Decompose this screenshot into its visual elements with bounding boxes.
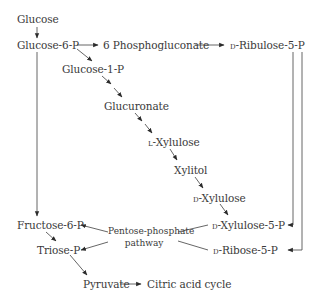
hub-line-1: Pentose-phosphate	[108, 225, 180, 237]
hub-pentose-phosphate-pathway: Pentose-phosphate pathway	[108, 225, 180, 249]
arrow-ribulose-to-xyl5p	[288, 52, 293, 225]
node-6-phosphogluconate: 6 Phosphogluconate	[103, 39, 209, 51]
arrow-f6p-to-triose	[46, 232, 56, 241]
node-xylitol: Xylitol	[174, 164, 207, 176]
arrow-dxyl-to-xyl5p	[220, 204, 228, 215]
pathway-diagram: Glucose Glucose-6-P 6 Phosphogluconate d…	[0, 0, 317, 304]
node-d-xylulose-5-p: d-Xylulose-5-P	[212, 219, 285, 232]
arrow-triose-to-pyruvate	[70, 255, 87, 275]
node-label: -Ribulose-5-P	[236, 39, 305, 51]
node-citric-acid-cycle: Citric acid cycle	[147, 278, 231, 290]
arrow-lxyl-to-xylitol	[170, 149, 177, 160]
node-label: -Xylulose	[199, 192, 246, 204]
node-d-ribose-5-p: d-Ribose-5-P	[213, 244, 278, 257]
hub-line-2: pathway	[108, 237, 180, 249]
node-label: -Xylulose-5-P	[218, 219, 286, 231]
node-glucose-6-p: Glucose-6-P	[17, 39, 79, 51]
arrow-glucuronate-to-lxyl-2	[145, 124, 152, 133]
node-pyruvate: Pyruvate	[83, 278, 130, 290]
arrow-hub-to-triose	[81, 242, 108, 250]
arrow-g1p-to-glucuronate-2	[114, 88, 122, 97]
node-d-xylulose: d-Xylulose	[193, 192, 246, 205]
node-triose-p: Triose-P	[37, 244, 80, 256]
node-label: -Xylulose	[153, 136, 200, 148]
arrow-hub-to-f6p	[81, 225, 108, 232]
arrow-xylitol-to-dxyl	[195, 177, 203, 188]
node-label: -Ribose-5-P	[219, 244, 278, 256]
arrow-ribulose-to-ribose5p	[288, 52, 302, 250]
line-ribose5p-to-hub	[178, 241, 208, 250]
node-l-xylulose: l-Xylulose	[148, 136, 200, 149]
node-d-ribulose-5-p: d-Ribulose-5-P	[230, 39, 305, 52]
node-fructose-6-p: Fructose-6-P	[17, 219, 84, 231]
arrow-glucuronate-to-lxyl-1	[135, 113, 142, 121]
arrow-g1p-to-glucuronate-1	[102, 76, 111, 84]
node-glucose: Glucose	[17, 13, 59, 25]
arrow-g6p-to-g1p	[77, 49, 92, 61]
node-glucose-1-p: Glucose-1-P	[62, 63, 124, 75]
node-glucuronate: Glucuronate	[104, 100, 169, 112]
